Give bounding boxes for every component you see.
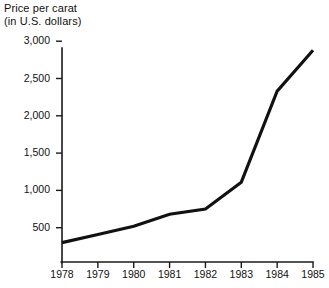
y-axis: [56, 41, 62, 263]
y-axis-tick-label-text: 2,500: [24, 72, 50, 84]
x-axis-tick-label-text: 1979: [86, 268, 109, 280]
x-axis-tick-label-text: 1983: [230, 268, 253, 280]
y-axis-tick-label-text: 1,000: [24, 183, 50, 195]
x-axis-tick-label-text: 1985: [301, 268, 324, 280]
x-axis-tick-label-text: 1978: [50, 268, 73, 280]
x-axis-tick-label-text: 1980: [122, 268, 145, 280]
data-series-line: [62, 50, 313, 242]
y-axis-ticks: [56, 41, 62, 228]
y-axis-tick-label-text: 1,500: [24, 146, 50, 158]
y-axis-tick-label-text: 500: [32, 221, 50, 233]
x-axis-tick-label-text: 1982: [194, 268, 217, 280]
y-axis-tick-label-text: 3,000: [24, 34, 50, 46]
x-axis-tick-label-text: 1984: [265, 268, 288, 280]
x-axis-tick-label-text: 1981: [158, 268, 181, 280]
y-axis-tick-label-text: 2,000: [24, 109, 50, 121]
line-chart: Price per carat (in U.S. dollars) 5001,0…: [0, 0, 329, 288]
